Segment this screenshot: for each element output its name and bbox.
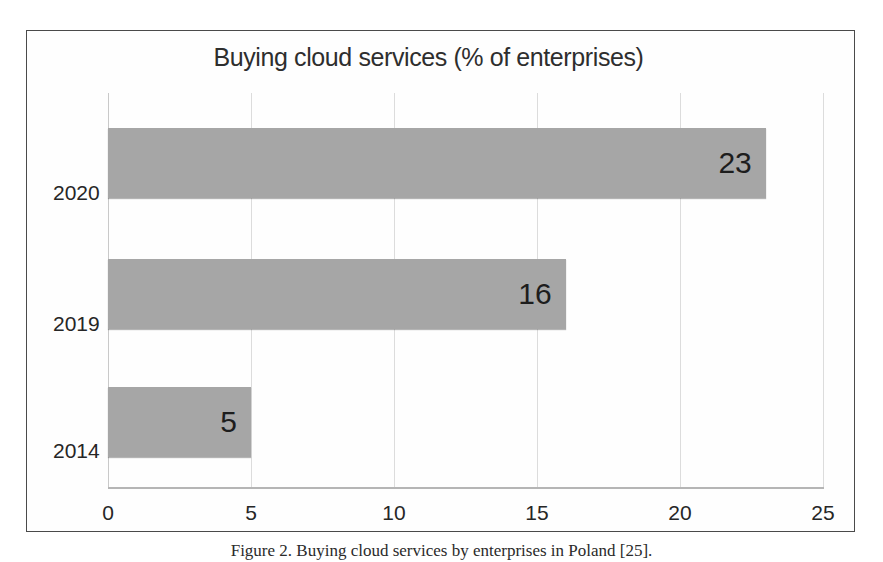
bar-row: 16 [108, 259, 566, 329]
x-tick-label-10: 10 [382, 501, 405, 525]
bar-2020[interactable]: 23 [108, 128, 766, 198]
bar-row: 5 [108, 387, 251, 457]
bar-2014[interactable]: 5 [108, 387, 251, 457]
plot-baseline [108, 487, 824, 489]
bar-value-2014: 5 [220, 407, 251, 437]
bar-2019[interactable]: 16 [108, 259, 566, 329]
x-tick-label-0: 0 [102, 501, 114, 525]
bar-value-2020: 23 [718, 148, 765, 178]
x-tick-label-5: 5 [245, 501, 257, 525]
bar-value-2019: 16 [518, 279, 565, 309]
bar-row: 23 [108, 128, 766, 198]
figure-frame: Buying cloud services (% of enterprises)… [26, 30, 855, 532]
x-tick-label-15: 15 [525, 501, 548, 525]
x-tick-label-25: 25 [811, 501, 834, 525]
figure-caption: Figure 2. Buying cloud services by enter… [0, 541, 883, 561]
chart-title: Buying cloud services (% of enterprises) [15, 43, 842, 72]
gridline-25 [823, 93, 824, 487]
x-tick-label-20: 20 [668, 501, 691, 525]
